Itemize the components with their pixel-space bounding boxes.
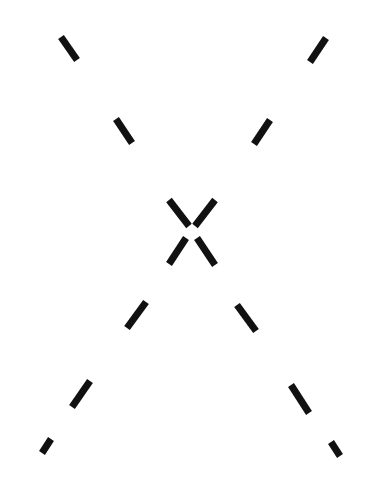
dashed-x-figure <box>0 0 372 478</box>
